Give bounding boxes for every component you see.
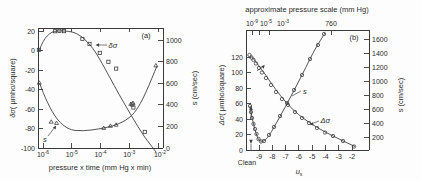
panel-a-ytick-2: -20 [25,67,35,74]
figure-container: 20 0 -20 -40 -60 -80 -100 1000 800 600 4… [0,0,421,181]
panel-b-ytick-5: 100 [231,69,243,76]
panel-b-ytick-right-2: 600 [372,106,384,113]
panel-a-ytick-right-1: 800 [166,58,178,65]
panel-a-ytick-5: -80 [25,125,35,132]
svg-text:10-9: 10-9 [246,18,258,27]
panel-a-ytick-right-5: 0 [166,145,170,152]
panel-a-ytick-4: -60 [25,106,35,113]
panel-b-label-delta-sigma: Δσ [310,116,331,126]
panel-b-xtick-5: -4 [322,153,328,160]
svg-text:10-6: 10-6 [37,149,49,158]
panel-b: 10-9 10-5 10-3 760 approximate pressure … [211,0,421,181]
panel-a-curve-tag-sigma: δσ [109,41,118,50]
svg-text:10-3: 10-3 [123,149,135,158]
panel-b-markers-s [248,32,325,143]
svg-text:10-5: 10-5 [260,18,272,27]
panel-b-ytick-right-6: 1400 [372,50,388,57]
panel-b-xlabel-origin: Clean [238,159,256,166]
panel-a-ytick-right-2: 600 [166,80,178,87]
svg-text:10-2: 10-2 [154,149,166,158]
panel-b-ytick-right-7: 1600 [372,36,388,43]
panel-a-markers-delta-sigma [37,29,146,133]
panel-b-ytick-1: 20 [235,131,243,138]
panel-b-ytick-2: 40 [235,116,243,123]
panel-a: 20 0 -20 -40 -60 -80 -100 1000 800 600 4… [0,0,210,181]
panel-b-ytick-3: 60 [235,100,243,107]
panel-a-tag: (a) [141,31,151,40]
panel-b-xtick-3: -6 [296,153,302,160]
panel-b-right-ticks [364,40,369,138]
panel-b-curve-tag-s: s [303,87,307,96]
panel-a-x-ticks [43,28,158,148]
panel-b-ylabel-left: Δσ( μmho/square) [217,64,226,126]
svg-text:10-4: 10-4 [94,149,106,158]
panel-b-xtick-4: -5 [309,153,315,160]
panel-b-ytick-right-3: 800 [372,92,384,99]
panel-a-curve-s [40,66,158,131]
panel-b-ytick-right-4: 1000 [372,78,388,85]
clean-up-arrow-icon [249,140,252,144]
panel-b-xtick-2: -7 [282,153,288,160]
panel-b-ytick-6: 120 [231,54,243,61]
panel-a-ytick-0: 20 [27,28,35,35]
panel-b-xlabel: us [296,167,303,177]
panel-b-xtick-1: -8 [269,153,275,160]
panel-b-ylabel-right: s (cm/sec) [396,77,405,112]
panel-a-x-tick-labels: 10-6 10-5 10-4 10-3 10-2 [37,149,166,158]
panel-a-ytick-right-4: 200 [166,123,178,130]
panel-b-ytick-right-5: 1200 [372,64,388,71]
panel-b-cluster-leader-high [257,65,265,71]
panel-b-ytick-4: 80 [235,85,243,92]
panel-a-label-delta-sigma: δσ [96,41,118,50]
svg-text:760: 760 [325,20,337,27]
panel-a-ytick-6: -100 [21,145,35,152]
panel-b-tag: (b) [349,33,359,42]
svg-text:10-5: 10-5 [66,149,78,158]
panel-b-x-ticks [259,145,352,150]
panel-b-left-ticks [246,57,251,150]
panel-a-curve-delta-sigma [40,31,157,152]
svg-text:10-3: 10-3 [277,18,289,27]
panel-b-top-axis-title: approximate pressure scale (mm Hg) [245,5,369,14]
panel-b-xtick-7: -2 [349,153,355,160]
panel-b-ytick-right-0: 200 [372,134,384,141]
panel-a-right-ticks [158,40,163,148]
panel-a-ytick-3: -40 [25,86,35,93]
panel-a-ytick-right-3: 400 [166,101,178,108]
panel-a-ylabel-right: s (cm/sec) [190,70,199,105]
panel-b-top-tick-labels: 10-9 10-5 10-3 760 [246,18,337,27]
panel-b-plot: 10-9 10-5 10-3 760 approximate pressure … [211,0,421,181]
panel-a-markers-s [37,64,158,130]
panel-a-ytick-right-0: 1000 [166,37,182,44]
panel-a-curve-tag-s: s [43,135,47,144]
panel-b-xtick-6: -3 [336,153,342,160]
panel-a-ylabel-left: δσ( μmho/square) [8,58,17,118]
panel-b-ytick-right-1: 400 [372,120,384,127]
panel-b-top-ticks [252,30,331,35]
panel-b-xtick-0: -9 [256,153,262,160]
panel-a-ytick-1: 0 [31,47,35,54]
panel-a-xlabel: pressure x time (mm Hg x min) [49,163,152,172]
panel-a-plot: 20 0 -20 -40 -60 -80 -100 1000 800 600 4… [0,0,210,181]
panel-b-curve-delta-sigma [250,56,355,147]
panel-b-ytick-0: 0 [239,147,243,154]
panel-a-label-s: s [43,126,56,144]
panel-b-curve-tag-sigma: Δσ [320,116,331,125]
